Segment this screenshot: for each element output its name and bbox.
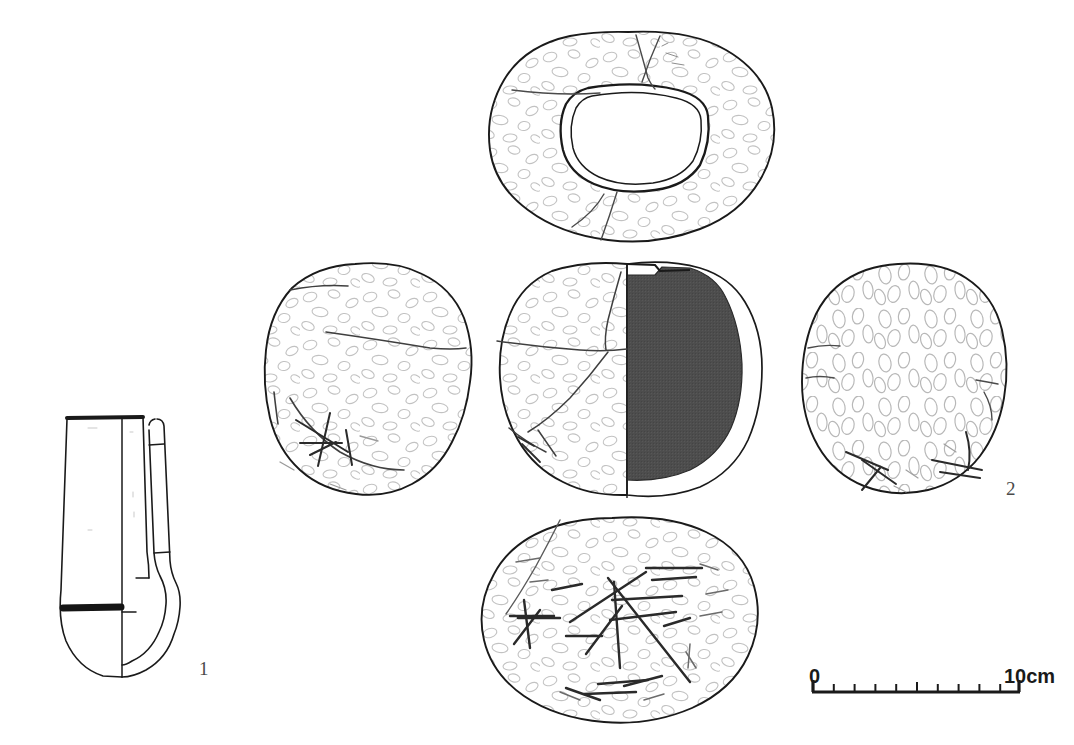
profile-handle-tick-lower [154,552,170,553]
object-2-top-view [489,32,774,242]
scale-bar-end-label: 10cm [1004,665,1055,688]
profile-handle-outer [122,419,180,677]
drawing-canvas [0,0,1074,745]
profile-inner-wall [143,417,149,578]
profile-handle-tick-upper [149,444,164,445]
object-2-front-view-half-section [497,262,762,498]
profile-outer-wall [60,419,122,677]
illustration-plate: 1 2 0 10cm [0,0,1074,745]
figure-label-1: 1 [199,658,209,680]
scale-bar-start-label: 0 [809,665,820,688]
object-2-right-side-view [802,264,1007,494]
profile-dark-band [63,607,121,608]
scale-bar [812,680,1020,692]
figure-label-2: 2 [1006,478,1016,500]
profile-faint-marks [88,428,134,530]
object-2-bottom-view [482,517,758,722]
object-2-left-side-view [265,263,472,495]
profile-handle-inner [149,419,155,425]
profile-rim-line [67,417,143,418]
object-1-profile-view [60,417,180,677]
